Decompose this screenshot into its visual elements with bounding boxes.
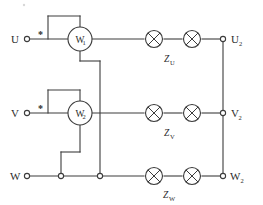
impedance-zv-subscript: V [170, 133, 175, 140]
load-zw-element-2[interactable] [184, 168, 201, 185]
circuit-diagram: W 1 W 2 [0, 0, 263, 205]
terminal-v-label: V [11, 107, 19, 119]
terminal-v2-subscript: 2 [239, 114, 242, 121]
terminal-u-label: U [11, 33, 19, 45]
terminal-v-node[interactable] [24, 110, 29, 115]
polarity-mark-w1: * [38, 29, 43, 40]
junction-node-w1-return [97, 173, 102, 178]
terminal-w2-label: W [230, 170, 241, 182]
load-zv-element-2[interactable] [184, 105, 201, 122]
scan-artifact [23, 4, 25, 6]
terminal-w2-node[interactable] [220, 173, 225, 178]
junction-node-w2-return [58, 173, 63, 178]
terminal-u2-node[interactable] [220, 36, 225, 41]
terminal-w-label: W [10, 170, 21, 182]
load-zv-element-1[interactable] [146, 105, 163, 122]
impedance-zu-subscript: U [170, 59, 175, 66]
terminal-w2-subscript: 2 [241, 177, 244, 184]
load-zu-element-2[interactable] [184, 31, 201, 48]
impedance-zw-subscript: W [169, 195, 176, 202]
terminal-w-node[interactable] [24, 173, 29, 178]
terminal-u2-subscript: 2 [239, 40, 242, 47]
wattmeter-w2-subscript: 2 [83, 113, 86, 120]
polarity-mark-w2: * [38, 103, 43, 114]
terminal-v2-node[interactable] [220, 110, 225, 115]
circuit-canvas: W 1 W 2 [0, 0, 263, 205]
wattmeter-w1-subscript: 1 [83, 39, 86, 46]
terminal-u-node[interactable] [24, 36, 29, 41]
load-zw-element-1[interactable] [146, 168, 163, 185]
load-zu-element-1[interactable] [146, 31, 163, 48]
terminal-u2-label: U [231, 33, 239, 45]
